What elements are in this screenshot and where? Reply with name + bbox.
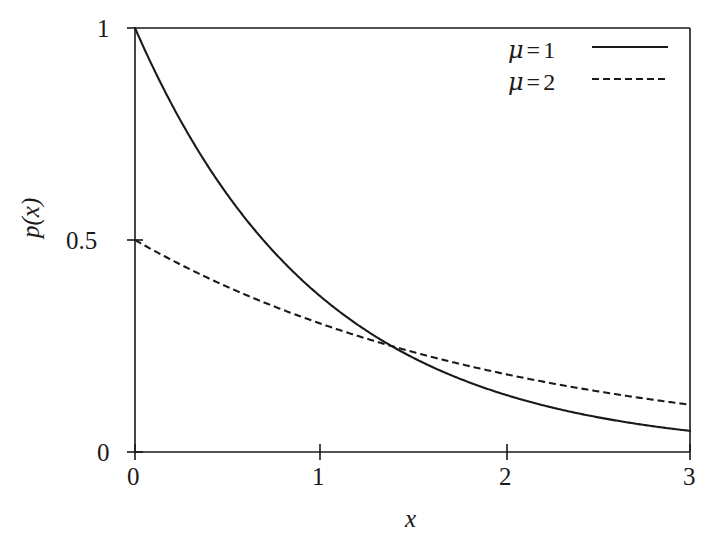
- y-tick-label-1: 1: [97, 16, 110, 41]
- x-tick-label-0: 0: [127, 464, 140, 489]
- legend-mu-symbol-2: μ: [508, 68, 524, 96]
- x-tick-label-2: 2: [499, 464, 512, 489]
- series-line-mu-2: [135, 240, 690, 405]
- legend-mu-symbol-1: μ: [508, 36, 524, 64]
- exponential-pdf-figure: 1 0.5 0 0 1 2 3 p(x) x μ=1 μ=2: [0, 0, 713, 545]
- legend-entry-mu-2: μ=2: [508, 70, 555, 94]
- legend-entry-mu-1: μ=1: [508, 38, 555, 62]
- y-tick-label-0-5: 0.5: [66, 228, 97, 253]
- legend-equals-2: =: [524, 69, 544, 95]
- x-tick-label-1: 1: [312, 464, 325, 489]
- legend-value-1: 1: [543, 37, 555, 63]
- y-axis-title: p(x): [18, 198, 43, 238]
- legend-value-2: 2: [543, 69, 555, 95]
- x-axis-title: x: [405, 506, 416, 531]
- y-tick-label-0: 0: [97, 440, 110, 465]
- legend-equals-1: =: [524, 37, 544, 63]
- series-line-mu-1: [135, 28, 690, 431]
- x-tick-label-3: 3: [683, 464, 696, 489]
